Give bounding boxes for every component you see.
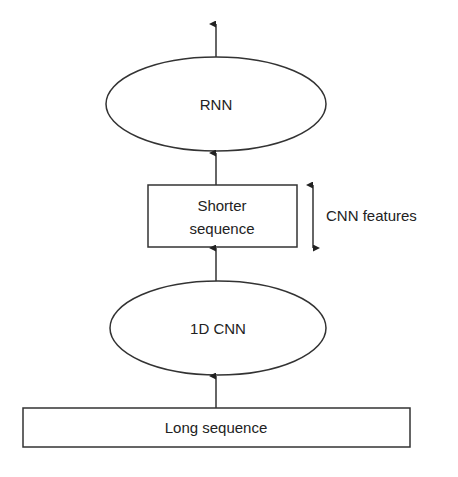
long-sequence-label: Long sequence [165, 419, 268, 436]
cnn-node: 1D CNN [110, 281, 326, 375]
cnn-label: 1D CNN [190, 320, 246, 337]
shorter-sequence-label-line2: sequence [189, 220, 254, 237]
diagram-canvas: RNN Shorter sequence CNN features 1D CNN… [0, 0, 458, 477]
cnn-features-label: CNN features [326, 207, 417, 224]
rnn-label: RNN [200, 96, 233, 113]
rnn-node: RNN [106, 57, 326, 151]
cnn-features-annotation: CNN features [313, 185, 417, 248]
long-sequence-node: Long sequence [23, 408, 410, 447]
shorter-sequence-node: Shorter sequence [148, 185, 297, 247]
shorter-sequence-label-line1: Shorter [197, 197, 246, 214]
